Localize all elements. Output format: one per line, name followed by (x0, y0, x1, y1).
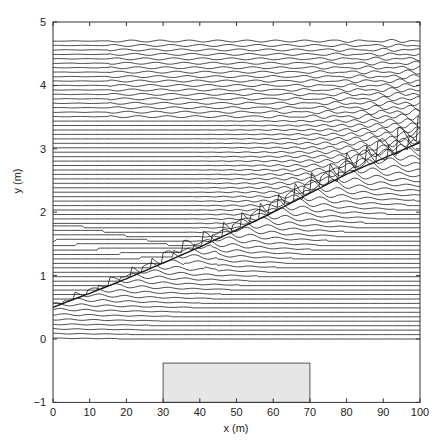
wave-trace (53, 53, 420, 56)
y-tick-label: 0 (40, 333, 46, 345)
x-tick-label: 100 (411, 406, 429, 418)
wave-trace (53, 138, 420, 159)
x-tick-label: 0 (50, 406, 56, 418)
x-tick-label: 20 (120, 406, 132, 418)
wave-trace (53, 240, 420, 254)
y-tick-label: 5 (40, 16, 46, 28)
wave-trace (53, 114, 420, 120)
wave-trace (53, 44, 420, 47)
wave-trace (53, 119, 420, 124)
x-tick-label: 40 (194, 406, 206, 418)
wave-trace (53, 84, 420, 88)
wave-trace (53, 70, 420, 74)
wave-trace (53, 314, 420, 317)
y-tick-label: 2 (40, 206, 46, 218)
wave-trace (53, 57, 420, 61)
wave-trace (53, 48, 420, 51)
x-tick-label: 90 (377, 406, 389, 418)
wave-trace (53, 274, 420, 282)
wave-trace-chart: 0102030405060708090100 −1012345 x (m) y … (0, 0, 446, 446)
axes-frame (53, 22, 420, 402)
wave-trace (53, 116, 420, 147)
wave-trace (53, 333, 420, 334)
y-tick-label: −1 (33, 396, 46, 408)
obstacle-rectangle (163, 363, 310, 402)
x-tick-label: 30 (157, 406, 169, 418)
axes (53, 22, 420, 402)
wave-trace (53, 136, 420, 143)
y-tick-label: 1 (40, 270, 46, 282)
wave-trace (53, 132, 420, 138)
wave-trace (53, 123, 420, 128)
x-tick-label: 80 (340, 406, 352, 418)
wave-trace (53, 66, 420, 70)
y-tick-label: 4 (40, 79, 46, 91)
x-tick-label: 10 (84, 406, 96, 418)
wave-trace (53, 338, 420, 339)
wave-trace (53, 251, 420, 264)
wave-trace (53, 161, 420, 181)
wave-trace (53, 288, 420, 295)
wave-trace (53, 232, 420, 246)
wave-trace (53, 267, 420, 277)
wave-trace (53, 40, 420, 43)
wave-trace (53, 139, 420, 164)
wave-trace (53, 319, 420, 321)
wave-trace (53, 308, 420, 312)
wave-trace (53, 127, 420, 155)
wave-trace (53, 75, 420, 79)
wave-trace (53, 88, 420, 92)
y-tick-label: 3 (40, 143, 46, 155)
wave-trace (53, 127, 420, 133)
wave-trace (53, 219, 420, 232)
wave-trace (53, 97, 420, 101)
wave-trace (53, 61, 420, 65)
x-tick-label: 50 (230, 406, 242, 418)
wave-trace (53, 101, 420, 105)
wave-trace (53, 292, 420, 299)
x-tick-label: 60 (267, 406, 279, 418)
wave-front-line (53, 143, 420, 308)
wave-trace (53, 146, 420, 168)
wave-trace (53, 329, 420, 331)
wave-traces (53, 40, 420, 340)
x-axis-label: x (m) (223, 422, 248, 434)
y-axis-label: y (m) (11, 168, 23, 193)
wave-trace (53, 324, 420, 326)
wave-trace (53, 93, 420, 97)
wave-trace (53, 79, 420, 83)
x-tick-label: 70 (304, 406, 316, 418)
wave-trace (53, 105, 420, 111)
